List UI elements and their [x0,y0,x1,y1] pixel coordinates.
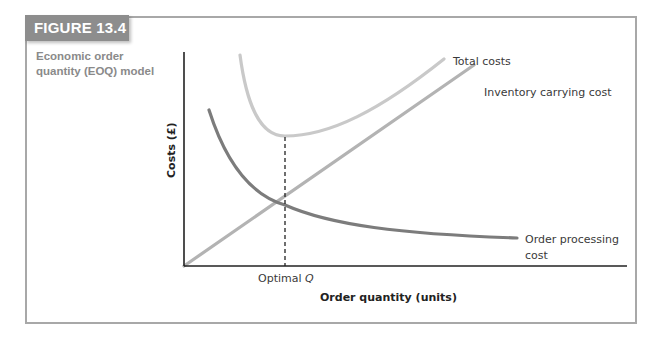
x-axis-title: Order quantity (units) [320,291,457,304]
order-processing-cost-curve [209,110,517,238]
inventory-carrying-cost-label: Inventory carrying cost [484,86,612,99]
y-axis-title: Costs (£) [165,122,178,178]
optimal-q-label: Optimal Q [258,272,314,285]
eoq-chart: Total costs Inventory carrying cost Orde… [0,0,661,345]
optimal-q-prefix: Optimal [258,272,305,285]
optimal-q-variable: Q [305,272,314,285]
inventory-carrying-cost-line [184,65,474,266]
order-processing-cost-label-line2: cost [525,249,549,262]
order-processing-cost-label-line1: Order processing [525,233,619,246]
total-costs-curve [240,55,444,136]
total-costs-label: Total costs [452,55,511,68]
